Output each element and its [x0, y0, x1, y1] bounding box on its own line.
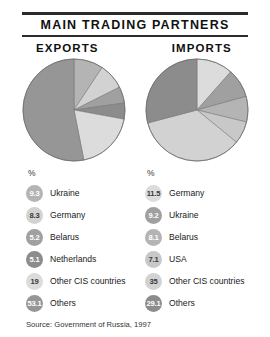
legend-label: Germany	[169, 188, 204, 198]
column-header-imports: IMPORTS	[135, 42, 270, 54]
legend-row: 8.3Germany	[26, 204, 146, 226]
legend-row: 9.3Ukraine	[26, 182, 146, 204]
legend-row: 8.1Belarus	[145, 226, 265, 248]
legend-bullet: 29.1	[145, 295, 162, 312]
legend-label: Other CIS countries	[50, 276, 125, 286]
legend-row: 5.2Belarus	[26, 226, 146, 248]
legend-bullet: 5.1	[26, 251, 43, 268]
pie-imports-svg	[145, 58, 249, 162]
column-header-exports: EXPORTS	[0, 42, 135, 54]
pie-charts	[0, 58, 269, 162]
legend-bullet: 35	[145, 273, 162, 290]
legend-bullet: 9.3	[26, 185, 43, 202]
pie-exports-svg	[22, 58, 126, 162]
title-block: MAIN TRADING PARTNERS	[22, 12, 248, 37]
legend-row: 5.1Netherlands	[26, 248, 146, 270]
legend-label: Ukraine	[169, 210, 199, 220]
pie-chart-exports	[22, 58, 126, 162]
page-title: MAIN TRADING PARTNERS	[22, 15, 248, 35]
legend-units-exports: %	[28, 168, 146, 178]
legend-row: 9.2Ukraine	[145, 204, 265, 226]
legend-bullet: 8.3	[26, 207, 43, 224]
legend-bullet: 9.2	[145, 207, 162, 224]
trading-partners-figure: MAIN TRADING PARTNERS EXPORTS IMPORTS % …	[0, 0, 269, 337]
pie-chart-imports	[145, 58, 249, 162]
legend-label: Ukraine	[50, 188, 80, 198]
legend-label: Belarus	[50, 232, 79, 242]
legend-row: 29.1Others	[145, 292, 265, 314]
legend-label: Netherlands	[50, 254, 96, 264]
title-rule-bottom	[22, 35, 248, 37]
legend-label: Others	[169, 298, 195, 308]
legend-row: 19Other CIS countries	[26, 270, 146, 292]
legend-exports: % 9.3Ukraine8.3Germany5.2Belarus5.1Nethe…	[26, 168, 146, 314]
legend-bullet: 5.2	[26, 229, 43, 246]
legend-label: Germany	[50, 210, 85, 220]
legend-units-imports: %	[147, 168, 265, 178]
legend-row: 7.1USA	[145, 248, 265, 270]
legend-bullet: 19	[26, 273, 43, 290]
column-headers: EXPORTS IMPORTS	[0, 42, 269, 54]
legend-row: 53.1Others	[26, 292, 146, 314]
legend-label: USA	[169, 254, 187, 264]
legend-imports: % 11.5Germany9.2Ukraine8.1Belarus7.1USA3…	[145, 168, 265, 314]
legend-bullet: 11.5	[145, 185, 162, 202]
legend-row: 11.5Germany	[145, 182, 265, 204]
legend-label: Other CIS countries	[169, 276, 244, 286]
legend-row: 35Other CIS countries	[145, 270, 265, 292]
legend-label: Others	[50, 298, 76, 308]
legend-bullet: 8.1	[145, 229, 162, 246]
legend-bullet: 7.1	[145, 251, 162, 268]
source-note: Source: Government of Russia, 1997	[26, 320, 151, 329]
legend-bullet: 53.1	[26, 295, 43, 312]
legend-label: Belarus	[169, 232, 198, 242]
